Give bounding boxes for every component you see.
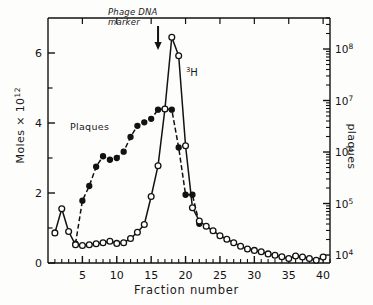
tritium-data-point <box>107 238 113 244</box>
tritium-data-point <box>245 246 251 252</box>
tritium-data-point <box>217 233 223 239</box>
tritium-data-point <box>135 229 141 235</box>
tritium-data-point <box>293 253 299 259</box>
tritium-data-point <box>162 106 168 112</box>
y-axis-right-label: plaques <box>345 107 358 187</box>
plaques-data-point <box>135 123 140 128</box>
tritium-data-point <box>190 205 196 211</box>
plaques-series-annotation: Plaques <box>70 121 109 132</box>
tritium-data-point <box>141 222 147 228</box>
y-left-tick-label: 4 <box>35 117 42 130</box>
x-tick-label: 30 <box>247 269 261 282</box>
tritium-data-point <box>238 243 244 249</box>
plaques-data-point <box>101 154 106 159</box>
x-tick-label: 25 <box>213 269 227 282</box>
y-axis-left-label: Moles × 1012 <box>13 75 28 175</box>
tritium-data-point <box>79 243 85 249</box>
plaques-data-point <box>169 107 174 112</box>
tritium-data-point <box>196 218 202 224</box>
y-axis-left-label-text: Moles × 10 <box>14 98 27 164</box>
tritium-data-point <box>272 252 278 258</box>
x-axis-label: Fraction number <box>0 283 373 297</box>
tritium-data-point <box>86 242 92 248</box>
tritium-data-point <box>73 242 79 248</box>
tritium-base: H <box>190 67 198 78</box>
y-left-tick-label: 2 <box>35 187 42 200</box>
x-tick-label: 5 <box>79 269 86 282</box>
tritium-data-point <box>169 34 175 40</box>
x-tick-label: 40 <box>316 269 330 282</box>
tritium-data-point <box>100 240 106 246</box>
tritium-data-point <box>300 254 306 260</box>
y-right-tick-label: 107 <box>335 94 353 107</box>
y-right-tick-label: 108 <box>335 42 353 55</box>
phage-marker-arrow <box>154 26 161 50</box>
phage-marker-line2: marker <box>108 18 158 28</box>
tritium-data-point <box>114 241 120 247</box>
plaques-data-point <box>121 149 126 154</box>
tritium-data-point <box>52 230 58 236</box>
x-tick-label: 15 <box>144 269 158 282</box>
tritium-data-point <box>286 256 292 262</box>
plot-frame <box>48 18 330 263</box>
tritium-data-point <box>258 249 264 255</box>
tritium-data-point <box>306 256 312 262</box>
tritium-data-point <box>121 240 127 246</box>
tritium-data-point <box>128 236 134 242</box>
tritium-data-point <box>224 236 230 242</box>
tritium-data-point <box>66 229 72 235</box>
y-left-tick-label: 6 <box>35 47 42 60</box>
plaques-data-point <box>149 116 154 121</box>
tritium-data-point <box>155 163 161 169</box>
plaques-data-point <box>80 198 85 203</box>
phage-dna-marker-annotation: Phage DNA marker <box>108 8 158 28</box>
tritium-data-point <box>59 206 65 212</box>
tritium-data-point <box>231 240 237 246</box>
x-axis-tick-labels: 510152025303540 <box>79 269 330 282</box>
plaques-data-point <box>128 135 133 140</box>
tritium-data-point <box>279 254 285 260</box>
y-left-axis-tick-labels: 0246 <box>35 47 42 270</box>
x-tick-label: 35 <box>282 269 296 282</box>
tritium-data-point <box>210 228 216 234</box>
chromatography-chart: 0246 104105106107108 510152025303540 <box>0 0 373 305</box>
tritium-data-point <box>148 194 154 200</box>
scientific-figure: 0246 104105106107108 510152025303540 Mol… <box>0 0 373 305</box>
x-tick-label: 20 <box>179 269 193 282</box>
tritium-data-point <box>265 251 271 257</box>
plaques-data-point <box>176 145 181 150</box>
y-right-axis-ticks <box>323 18 330 255</box>
plaques-data-point <box>107 157 112 162</box>
tritium-data-point <box>251 248 257 254</box>
tritium-data-point <box>313 257 319 263</box>
y-right-tick-label: 105 <box>335 197 353 210</box>
tritium-data-point <box>176 53 182 59</box>
tritium-data-point <box>183 143 189 149</box>
y-left-tick-label: 0 <box>35 257 42 270</box>
tritium-data-point <box>203 223 209 229</box>
plaques-data-point <box>94 164 99 169</box>
plaques-data-point <box>114 156 119 161</box>
plaques-data-point <box>183 192 188 197</box>
tritium-data-point <box>320 254 326 260</box>
tritium-data-point <box>93 241 99 247</box>
x-axis-ticks <box>48 18 330 263</box>
x-tick-label: 10 <box>110 269 124 282</box>
plaques-data-point <box>156 107 161 112</box>
y-right-tick-label: 104 <box>335 248 353 261</box>
plaques-data-point <box>142 120 147 125</box>
tritium-series-annotation: 3H <box>186 66 198 78</box>
y-axis-left-label-exponent: 12 <box>13 87 22 97</box>
plaques-data-point <box>87 184 92 189</box>
